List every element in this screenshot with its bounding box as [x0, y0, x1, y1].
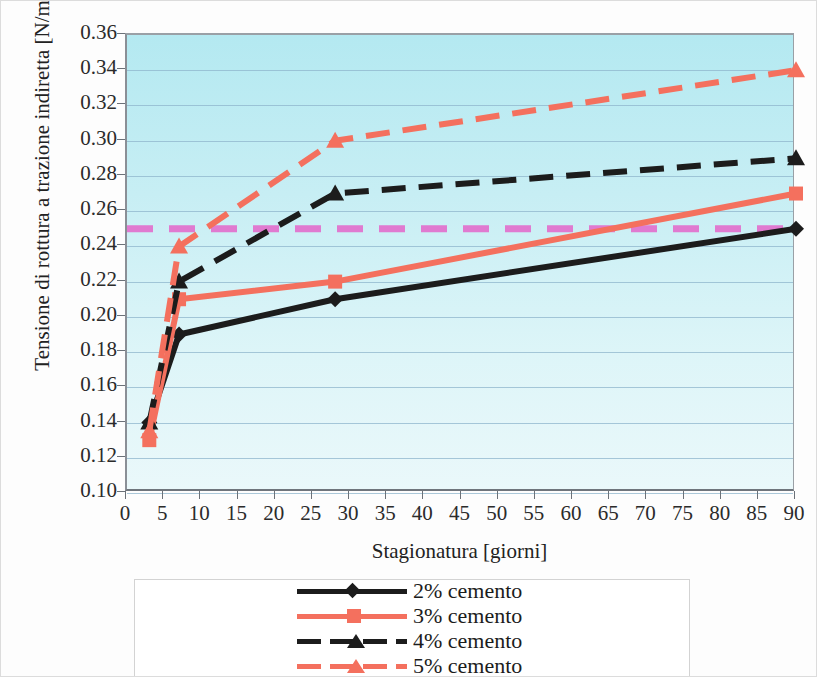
y-tick-mark	[117, 33, 125, 34]
x-tick-label: 70	[625, 503, 665, 524]
legend-swatch	[297, 604, 407, 628]
x-tick-mark	[237, 491, 238, 499]
legend-marker-icon	[347, 634, 365, 648]
y-tick-label: 0.28	[55, 163, 117, 184]
y-tick-label: 0.12	[55, 445, 117, 466]
x-tick-mark	[385, 491, 386, 499]
plot-area	[125, 33, 794, 491]
series-1	[141, 221, 804, 431]
x-tick-mark	[571, 491, 572, 499]
legend-items: 2% cemento3% cemento4% cemento5% cemento	[135, 579, 689, 677]
x-tick-label: 90	[774, 503, 814, 524]
x-tick-label: 5	[142, 503, 182, 524]
figure-page: Tensione di rottura a trazione indiretta…	[0, 0, 817, 677]
y-tick-mark	[117, 139, 125, 140]
y-tick-mark	[117, 315, 125, 316]
x-tick-mark	[534, 491, 535, 499]
legend-label: 2% cemento	[407, 579, 522, 604]
x-tick-mark	[608, 491, 609, 499]
y-tick-mark	[117, 174, 125, 175]
y-tick-label: 0.22	[55, 269, 117, 290]
y-tick-label: 0.30	[55, 128, 117, 149]
y-tick-label: 0.32	[55, 92, 117, 113]
x-tick-mark	[348, 491, 349, 499]
x-tick-label: 0	[105, 503, 145, 524]
x-tick-mark	[794, 491, 795, 499]
y-tick-label: 0.24	[55, 233, 117, 254]
y-tick-mark	[117, 68, 125, 69]
x-tick-label: 25	[291, 503, 331, 524]
legend-marker-icon	[347, 659, 365, 673]
y-tick-mark	[117, 280, 125, 281]
x-tick-label: 10	[179, 503, 219, 524]
data-point-marker	[789, 187, 803, 201]
legend-swatch	[297, 654, 407, 677]
legend-marker-icon	[345, 582, 361, 598]
x-tick-label: 40	[402, 503, 442, 524]
legend-swatch	[297, 629, 407, 653]
legend-item: 5% cemento	[135, 653, 689, 677]
x-tick-label: 50	[477, 503, 517, 524]
x-tick-label: 15	[217, 503, 257, 524]
legend-item: 4% cemento	[135, 628, 689, 653]
line-chart: Tensione di rottura a trazione indiretta…	[1, 1, 817, 677]
x-tick-mark	[683, 491, 684, 499]
y-tick-label: 0.10	[55, 480, 117, 501]
legend-item: 3% cemento	[135, 603, 689, 628]
data-point-marker	[328, 275, 342, 289]
legend-label: 3% cemento	[407, 603, 522, 629]
data-point-marker	[326, 185, 344, 201]
legend-label: 4% cemento	[407, 628, 522, 654]
legend: 2% cemento3% cemento4% cemento5% cemento	[134, 579, 690, 677]
y-tick-mark	[117, 421, 125, 422]
y-tick-mark	[117, 456, 125, 457]
x-tick-mark	[645, 491, 646, 499]
x-tick-mark	[162, 491, 163, 499]
x-tick-mark	[757, 491, 758, 499]
x-tick-mark	[199, 491, 200, 499]
x-tick-mark	[311, 491, 312, 499]
data-point-marker	[327, 291, 343, 307]
x-tick-label: 45	[440, 503, 480, 524]
x-tick-label: 30	[328, 503, 368, 524]
y-tick-label: 0.26	[55, 198, 117, 219]
x-tick-label: 55	[514, 503, 554, 524]
legend-label: 5% cemento	[407, 653, 522, 677]
x-tick-label: 60	[551, 503, 591, 524]
x-tick-mark	[125, 491, 126, 499]
y-tick-mark	[117, 209, 125, 210]
legend-marker-icon	[347, 609, 361, 623]
x-tick-label: 20	[254, 503, 294, 524]
x-tick-label: 85	[737, 503, 777, 524]
x-tick-mark	[422, 491, 423, 499]
x-tick-mark	[720, 491, 721, 499]
series-4	[140, 61, 805, 438]
y-tick-label: 0.20	[55, 304, 117, 325]
y-tick-label: 0.18	[55, 339, 117, 360]
y-tick-label: 0.34	[55, 57, 117, 78]
y-tick-mark	[117, 491, 125, 492]
data-point-marker	[788, 221, 804, 237]
series-line	[149, 70, 796, 431]
x-tick-label: 35	[365, 503, 405, 524]
series-layer	[127, 35, 796, 493]
y-tick-mark	[117, 385, 125, 386]
x-tick-label: 65	[588, 503, 628, 524]
y-tick-mark	[117, 350, 125, 351]
y-axis-title: Tensione di rottura a trazione indiretta…	[30, 0, 55, 379]
x-axis-title: Stagionatura [giorni]	[125, 539, 794, 564]
y-tick-mark	[117, 244, 125, 245]
legend-item: 2% cemento	[135, 579, 689, 603]
x-tick-mark	[497, 491, 498, 499]
x-tick-mark	[274, 491, 275, 499]
y-tick-label: 0.36	[55, 22, 117, 43]
x-tick-mark	[460, 491, 461, 499]
y-tick-label: 0.14	[55, 410, 117, 431]
y-tick-label: 0.16	[55, 374, 117, 395]
legend-swatch	[297, 579, 407, 603]
y-tick-mark	[117, 103, 125, 104]
x-tick-label: 80	[700, 503, 740, 524]
x-tick-label: 75	[663, 503, 703, 524]
